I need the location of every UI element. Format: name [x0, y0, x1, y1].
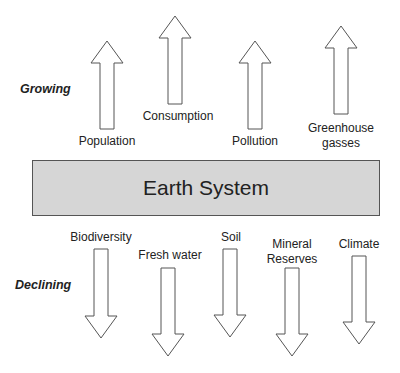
up-arrow-icon-consumption [159, 16, 191, 104]
growing-item-pollution: Pollution [232, 134, 278, 148]
declining-item-mineral-line1: Mineral [272, 237, 311, 251]
declining-item-fresh-water: Fresh water [138, 248, 201, 262]
growing-item-greenhouse-line1: Greenhouse [308, 121, 374, 135]
earth-system-title: Earth System [143, 176, 269, 200]
declining-item-climate: Climate [339, 237, 380, 251]
declining-item-mineral-line2: Reserves [267, 252, 318, 266]
down-arrow-icon-biodiversity [85, 249, 117, 338]
growing-label: Growing [20, 82, 71, 96]
down-arrow-icon-soil [214, 249, 246, 337]
earth-system-diagram: Growing Declining Population Consumption… [0, 0, 400, 373]
declining-label: Declining [15, 278, 71, 292]
down-arrow-icon-fresh-water [152, 268, 184, 356]
declining-item-soil: Soil [221, 230, 241, 244]
growing-item-greenhouse-line2: gasses [322, 136, 360, 150]
down-arrow-icon-climate [343, 256, 375, 344]
earth-system-box: Earth System [32, 160, 380, 216]
growing-item-consumption: Consumption [143, 109, 214, 123]
declining-item-biodiversity: Biodiversity [70, 230, 131, 244]
up-arrow-icon-population [91, 41, 123, 129]
up-arrow-icon-greenhouse-gasses [325, 26, 357, 114]
down-arrow-icon-mineral-reserves [276, 268, 308, 356]
growing-item-population: Population [79, 134, 136, 148]
up-arrow-icon-pollution [239, 41, 271, 129]
